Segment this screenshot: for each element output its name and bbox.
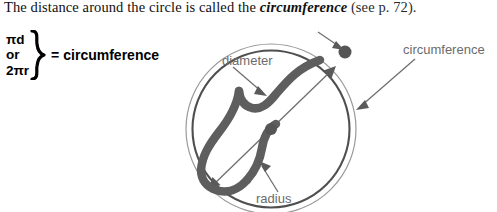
- label-circumference: circumference: [403, 42, 485, 57]
- circumference-dot-pointer-arrow: [318, 32, 344, 50]
- label-diameter: diameter: [222, 53, 273, 68]
- formula-line-two-pi-r: 2πr: [6, 63, 29, 79]
- circumference-label-leader: [356, 59, 415, 110]
- textbook-figure-page: The distance around the circle is called…: [0, 0, 497, 212]
- radius-label-leader: [259, 161, 278, 192]
- passage-lead: The distance around the circle is called…: [4, 0, 260, 15]
- center-dot-icon: [265, 123, 277, 135]
- passage-tail: (see p. 72).: [347, 0, 416, 15]
- right-curly-brace-icon: [30, 30, 48, 80]
- formula-terms: πd or 2πr: [6, 32, 29, 79]
- formula-result-label: circumference: [63, 47, 159, 63]
- label-radius: radius: [256, 191, 291, 206]
- equals-sign: =: [51, 47, 59, 63]
- formula-line-or: or: [6, 47, 29, 63]
- passage-term-circumference: circumference: [260, 0, 347, 15]
- formula-line-pi-d: πd: [6, 32, 29, 48]
- circumference-formula: πd or 2πr = circumference: [6, 30, 159, 80]
